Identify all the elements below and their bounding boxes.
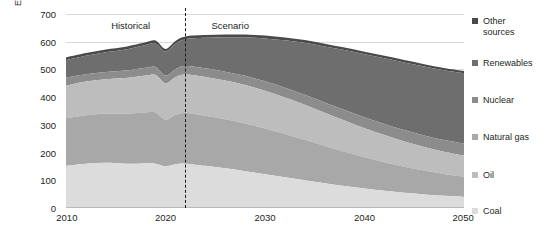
legend-label: Natural gas [483,132,529,143]
chart-root: EJ 0100200300400500600700 20102020203020… [0,0,553,243]
legend-label: Renewables [483,58,533,69]
x-tick-label: 2030 [254,212,275,223]
legend-swatch-icon [472,60,478,66]
legend-swatch-icon [472,134,478,140]
y-tick-label: 400 [40,92,56,103]
legend-label: Oil [483,170,494,181]
y-tick-label: 700 [40,9,56,20]
y-tick-label: 0 [51,203,56,214]
legend-item-other-sources[interactable]: Other sources [472,16,515,37]
legend-swatch-icon [472,18,478,24]
x-tick-label: 2040 [354,212,375,223]
legend-item-natural-gas[interactable]: Natural gas [472,132,529,143]
x-tick-label: 2010 [56,212,77,223]
annotation-historical: Historical [111,20,150,31]
x-tick-label: 2050 [453,212,474,223]
legend-item-oil[interactable]: Oil [472,170,494,181]
legend-swatch-icon [472,97,478,103]
y-tick-label: 300 [40,119,56,130]
y-tick-label: 100 [40,175,56,186]
legend-item-nuclear[interactable]: Nuclear [472,95,514,106]
stacked-area-series [66,14,464,208]
annotation-scenario: Scenario [211,20,249,31]
y-axis-unit-label: EJ [13,0,23,6]
legend-swatch-icon [472,208,478,214]
legend-item-coal[interactable]: Coal [472,206,502,217]
legend-label: Coal [483,206,502,217]
y-tick-label: 200 [40,147,56,158]
x-tick-label: 2020 [155,212,176,223]
y-tick-label: 500 [40,64,56,75]
legend-item-renewables[interactable]: Renewables [472,58,533,69]
plot-area: 0100200300400500600700 20102020203020402… [66,14,464,208]
legend-label: Nuclear [483,95,514,106]
legend-swatch-icon [472,172,478,178]
legend-label: Other sources [483,16,515,37]
y-tick-label: 600 [40,36,56,47]
x-axis-baseline [66,207,464,208]
historical-scenario-divider [185,8,186,208]
